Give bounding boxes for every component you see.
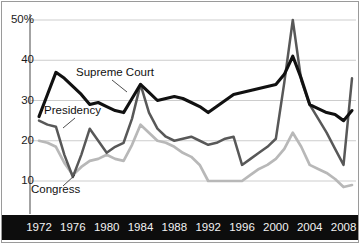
y-axis-tick-label: 50%: [0, 14, 34, 25]
x-axis-label-band: 1972197619801984198819921996200020042008: [2, 215, 358, 240]
chart-svg: [0, 0, 363, 248]
annotation-leader-line: [112, 80, 127, 92]
chart-container: 50%40302010 1972197619801984198819921996…: [0, 0, 363, 248]
series-label-supreme-court: Supreme Court: [76, 66, 154, 78]
x-axis-tick-label: 2008: [324, 221, 358, 233]
y-axis-tick-label: 20: [0, 135, 34, 146]
series-label-congress: Congress: [31, 183, 80, 195]
plot-area: [0, 0, 363, 248]
series-label-presidency: Presidency: [44, 104, 101, 116]
series-line-congress: [39, 125, 352, 187]
y-axis-tick-label: 40: [0, 54, 34, 65]
y-axis-tick-label: 30: [0, 95, 34, 106]
annotation-leader-line: [63, 118, 75, 128]
y-axis-tick-label: 10: [0, 175, 34, 186]
annotation-leaders-group: [63, 80, 127, 186]
